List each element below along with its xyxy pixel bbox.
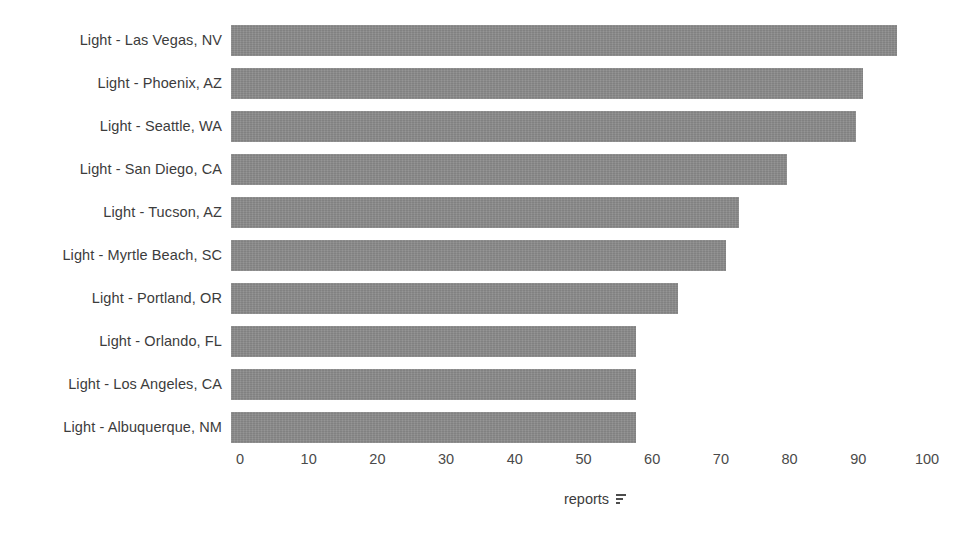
x-tick-label: 40 (507, 452, 523, 467)
bar-row: Light - Albuquerque, NM (0, 406, 959, 449)
x-tick-label: 20 (369, 452, 385, 467)
category-label: Light - Las Vegas, NV (0, 33, 231, 48)
bar-row: Light - Orlando, FL (0, 320, 959, 363)
x-axis: 0102030405060708090100 (231, 452, 959, 472)
bar-chart: Light - Las Vegas, NVLight - Phoenix, AZ… (0, 0, 959, 536)
bar[interactable] (231, 25, 897, 56)
x-tick-label: 50 (575, 452, 591, 467)
bar-track (231, 277, 959, 320)
x-tick-label: 60 (644, 452, 660, 467)
bar[interactable] (231, 326, 636, 357)
bar-row: Light - Los Angeles, CA (0, 363, 959, 406)
category-label: Light - Portland, OR (0, 291, 231, 306)
sort-icon-bar-1 (616, 494, 626, 496)
bar[interactable] (231, 369, 636, 400)
category-label: Light - Los Angeles, CA (0, 377, 231, 392)
category-label: Light - Orlando, FL (0, 334, 231, 349)
x-tick-label: 10 (301, 452, 317, 467)
category-label: Light - Albuquerque, NM (0, 420, 231, 435)
bar[interactable] (231, 154, 787, 185)
x-tick-label: 100 (915, 452, 939, 467)
bar-track (231, 191, 959, 234)
plot-area: Light - Las Vegas, NVLight - Phoenix, AZ… (0, 19, 959, 449)
bar-row: Light - Tucson, AZ (0, 191, 959, 234)
bar-row: Light - Myrtle Beach, SC (0, 234, 959, 277)
bar-track (231, 62, 959, 105)
bar[interactable] (231, 197, 739, 228)
bar-track (231, 363, 959, 406)
x-axis-title-label: reports (564, 492, 609, 507)
category-label: Light - Seattle, WA (0, 119, 231, 134)
category-label: Light - Phoenix, AZ (0, 76, 231, 91)
category-label: Light - Myrtle Beach, SC (0, 248, 231, 263)
bar[interactable] (231, 412, 636, 443)
bar[interactable] (231, 68, 863, 99)
bar-track (231, 406, 959, 449)
category-label: Light - Tucson, AZ (0, 205, 231, 220)
bar-row: Light - Phoenix, AZ (0, 62, 959, 105)
bar-track (231, 148, 959, 191)
bar-track (231, 105, 959, 148)
bar-row: Light - Seattle, WA (0, 105, 959, 148)
bar-track (231, 320, 959, 363)
bar-track (231, 234, 959, 277)
x-tick-label: 30 (438, 452, 454, 467)
bar-row: Light - Las Vegas, NV (0, 19, 959, 62)
bar-row: Light - San Diego, CA (0, 148, 959, 191)
x-tick-label: 90 (850, 452, 866, 467)
x-tick-label: 0 (236, 452, 244, 467)
sort-descending-icon[interactable] (616, 494, 626, 505)
bar[interactable] (231, 240, 726, 271)
sort-icon-bar-3 (616, 502, 620, 504)
category-label: Light - San Diego, CA (0, 162, 231, 177)
bar[interactable] (231, 111, 856, 142)
x-axis-title: reports (231, 487, 959, 511)
bar-row: Light - Portland, OR (0, 277, 959, 320)
bar[interactable] (231, 283, 678, 314)
x-tick-label: 70 (713, 452, 729, 467)
sort-icon-bar-2 (616, 498, 623, 500)
bar-track (231, 19, 959, 62)
x-tick-label: 80 (782, 452, 798, 467)
